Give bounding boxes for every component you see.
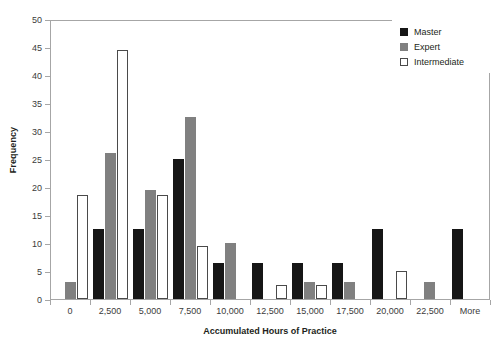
bar-expert bbox=[304, 282, 315, 299]
bar-master bbox=[252, 263, 263, 299]
bar-master bbox=[213, 263, 224, 299]
y-axis-title-text: Frequency bbox=[8, 127, 18, 173]
legend-item-label: Intermediate bbox=[414, 57, 464, 67]
x-axis-tick-label: 15,000 bbox=[290, 306, 330, 316]
x-axis-tick-label: 0 bbox=[50, 306, 90, 316]
bar-expert bbox=[65, 282, 76, 299]
bar-master bbox=[292, 263, 303, 299]
y-axis-tick bbox=[45, 20, 50, 21]
x-axis-tick-label: 7,500 bbox=[170, 306, 210, 316]
bar-group bbox=[51, 20, 91, 299]
bar-intermediate bbox=[316, 285, 327, 299]
x-axis-tick-label: 5,000 bbox=[130, 306, 170, 316]
x-axis-tick bbox=[90, 300, 91, 305]
y-axis-title: Frequency bbox=[6, 0, 20, 300]
bar-intermediate bbox=[157, 195, 168, 299]
x-axis-tick bbox=[170, 300, 171, 305]
y-axis-tick bbox=[45, 48, 50, 49]
x-axis-tick-label: 12,500 bbox=[250, 306, 290, 316]
x-axis-tick bbox=[330, 300, 331, 305]
legend-swatch-icon bbox=[400, 43, 408, 51]
bar-group bbox=[210, 20, 250, 299]
x-axis-tick bbox=[250, 300, 251, 305]
y-axis-tick-label: 10 bbox=[32, 239, 42, 249]
bar-expert bbox=[145, 190, 156, 299]
x-axis-tick-label: 2,500 bbox=[90, 306, 130, 316]
bar-group bbox=[170, 20, 210, 299]
x-axis-tick bbox=[490, 300, 491, 305]
bar-expert bbox=[344, 282, 355, 299]
x-axis-tick bbox=[50, 300, 51, 305]
x-axis-tick bbox=[210, 300, 211, 305]
histogram-chart: Frequency 05101520253035404550 02,5005,0… bbox=[0, 0, 499, 351]
bar-master bbox=[93, 229, 104, 299]
bar-master bbox=[452, 229, 463, 299]
x-axis-tick bbox=[130, 300, 131, 305]
bar-expert bbox=[105, 153, 116, 299]
y-axis-tick bbox=[45, 104, 50, 105]
y-axis-tick-label: 0 bbox=[37, 295, 42, 305]
x-axis-tick-label: More bbox=[450, 306, 490, 316]
y-axis-tick-label: 15 bbox=[32, 211, 42, 221]
legend-item-intermediate[interactable]: Intermediate bbox=[400, 54, 493, 69]
y-axis-tick-label: 50 bbox=[32, 15, 42, 25]
bar-group bbox=[290, 20, 330, 299]
x-axis-tick bbox=[410, 300, 411, 305]
bar-master bbox=[332, 263, 343, 299]
legend-swatch-icon bbox=[400, 28, 408, 36]
x-axis-tick-label: 20,000 bbox=[370, 306, 410, 316]
y-axis-tick-label: 25 bbox=[32, 155, 42, 165]
x-axis-title: Accumulated Hours of Practice bbox=[50, 326, 490, 336]
bar-master bbox=[133, 229, 144, 299]
bar-intermediate bbox=[276, 285, 287, 299]
bar-master bbox=[372, 229, 383, 299]
y-axis-tick bbox=[45, 132, 50, 133]
y-axis-tick bbox=[45, 272, 50, 273]
legend-item-expert[interactable]: Expert bbox=[400, 39, 493, 54]
x-axis-labels: 02,5005,0007,50010,00012,50015,00017,500… bbox=[50, 306, 490, 316]
bar-master bbox=[173, 159, 184, 299]
legend-swatch-icon bbox=[400, 58, 408, 66]
y-axis-tick-label: 40 bbox=[32, 71, 42, 81]
bar-intermediate bbox=[117, 50, 128, 299]
bar-expert bbox=[225, 243, 236, 299]
bar-group bbox=[250, 20, 290, 299]
x-axis-tick-label: 10,000 bbox=[210, 306, 250, 316]
chart-legend: MasterExpertIntermediate bbox=[392, 20, 493, 73]
bar-expert bbox=[185, 117, 196, 299]
x-axis-tick-label: 22,500 bbox=[410, 306, 450, 316]
bar-expert bbox=[424, 282, 435, 299]
x-axis-tick bbox=[370, 300, 371, 305]
y-axis-tick bbox=[45, 188, 50, 189]
bar-group bbox=[91, 20, 131, 299]
bar-intermediate bbox=[197, 246, 208, 299]
y-axis-tick bbox=[45, 216, 50, 217]
y-axis-tick-label: 45 bbox=[32, 43, 42, 53]
legend-item-label: Expert bbox=[414, 42, 440, 52]
bar-intermediate bbox=[77, 195, 88, 299]
bar-intermediate bbox=[396, 271, 407, 299]
legend-item-master[interactable]: Master bbox=[400, 24, 493, 39]
x-axis-tick bbox=[450, 300, 451, 305]
y-axis-tick bbox=[45, 160, 50, 161]
bar-group bbox=[131, 20, 171, 299]
y-axis-tick-label: 35 bbox=[32, 99, 42, 109]
x-axis-tick-label: 17,500 bbox=[330, 306, 370, 316]
x-axis-tick bbox=[290, 300, 291, 305]
y-axis-tick-label: 5 bbox=[37, 267, 42, 277]
legend-item-label: Master bbox=[414, 27, 442, 37]
y-axis-tick bbox=[45, 244, 50, 245]
y-axis-tick bbox=[45, 76, 50, 77]
y-axis-tick-label: 20 bbox=[32, 183, 42, 193]
bar-group bbox=[330, 20, 370, 299]
y-axis-tick-label: 30 bbox=[32, 127, 42, 137]
